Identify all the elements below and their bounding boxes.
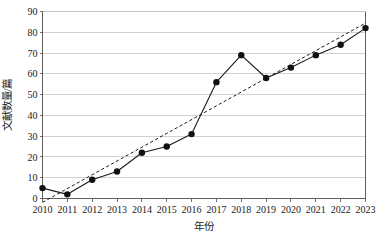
line-chart: 0102030405060708090 20102011201220132014…: [0, 0, 381, 241]
y-axis-tick-label: 90: [28, 6, 38, 17]
y-axis-title-group: 文献数量/篇: [1, 79, 13, 132]
y-axis-tick-label: 60: [28, 68, 38, 79]
y-axis-tick-label: 20: [28, 152, 38, 163]
y-axis-tick-label: 30: [28, 131, 38, 142]
data-point-marker: [213, 79, 219, 85]
data-point-marker: [362, 25, 368, 31]
x-axis-tick-label: 2019: [256, 204, 276, 215]
x-axis-tick-label: 2015: [157, 204, 177, 215]
y-axis-tick-label: 40: [28, 110, 38, 121]
x-axis-tick-label: 2013: [107, 204, 127, 215]
data-point-marker: [89, 177, 95, 183]
data-point-marker: [313, 52, 319, 58]
data-point-marker: [164, 143, 170, 149]
data-point-marker: [39, 185, 45, 191]
x-axis-tick-label: 2010: [33, 204, 53, 215]
x-axis-title: 年份: [194, 220, 215, 232]
data-point-marker: [64, 191, 70, 197]
x-axis-tick-label: 2012: [82, 204, 102, 215]
x-axis-tick-label: 2017: [206, 204, 226, 215]
data-point-marker: [238, 52, 244, 58]
data-point-marker: [263, 75, 269, 81]
data-point-marker: [188, 131, 194, 137]
y-axis-tick-label: 0: [33, 193, 38, 204]
data-point-marker: [139, 150, 145, 156]
x-axis-tick-label: 2021: [306, 204, 326, 215]
x-axis-tick-label: 2016: [182, 204, 202, 215]
data-point-marker: [337, 42, 343, 48]
data-point-marker: [288, 64, 294, 70]
y-axis-title: 文献数量/篇: [1, 79, 13, 132]
y-axis-tick-label: 50: [28, 89, 38, 100]
y-axis-tick-label: 70: [28, 48, 38, 59]
x-axis-tick-label: 2018: [231, 204, 251, 215]
data-point-marker: [114, 168, 120, 174]
x-axis-tick-label: 2014: [132, 204, 152, 215]
x-axis-tick-label: 2022: [331, 204, 351, 215]
x-axis-tick-label: 2020: [281, 204, 301, 215]
chart-container: 0102030405060708090 20102011201220132014…: [0, 0, 381, 241]
y-axis-tick-label: 80: [28, 27, 38, 38]
x-axis-tick-label: 2023: [356, 204, 376, 215]
y-axis-tick-label: 10: [28, 172, 38, 183]
x-axis-tick-label: 2011: [58, 204, 78, 215]
